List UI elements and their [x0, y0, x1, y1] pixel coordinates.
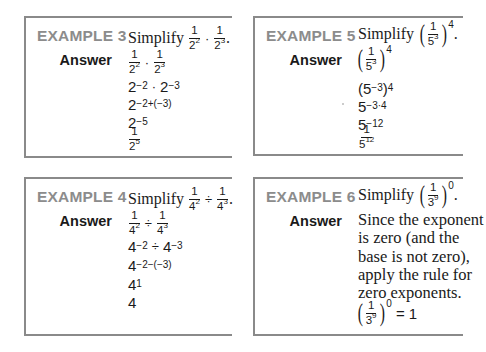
example-6-explanation-line-3: base is not zero),: [358, 247, 470, 267]
example-4-label: EXAMPLE 4: [37, 188, 127, 206]
example-5-prompt: Simplify (153)4.: [358, 21, 458, 47]
example-4-step-4: 41: [128, 276, 142, 293]
example-4-prompt: Simplify 142 ÷ 143.: [128, 186, 233, 212]
example-3-step-2: 2−2·2−3: [128, 78, 180, 95]
example-3-step-3: 2−2+(−3): [128, 96, 172, 113]
example-5-step-3: 5−3·4: [358, 98, 387, 115]
example-4-step-2: 4−2÷4−3: [128, 238, 183, 255]
example-3-prompt: Simplify 122 · 123.: [128, 25, 230, 51]
example-6-label: EXAMPLE 6: [266, 188, 356, 206]
example-4-answer-label: Answer: [32, 213, 112, 229]
example-6-explanation-line-2: is zero (and the: [358, 228, 459, 248]
example-5-label: EXAMPLE 5: [266, 27, 356, 45]
example-4-step-5: 4: [128, 294, 136, 311]
stray-dot: [342, 103, 344, 105]
example-4-step-3: 4−2−(−3): [128, 257, 172, 274]
simplify-word: Simplify: [128, 29, 184, 47]
example-6-explanation-line-4: apply the rule for: [358, 265, 472, 285]
simplify-word: Simplify: [358, 25, 414, 43]
fraction: 123: [214, 25, 225, 51]
example-6-prompt: Simplify (139)0.: [358, 182, 458, 208]
simplify-word: Simplify: [358, 186, 414, 204]
example-3-label: EXAMPLE 3: [37, 27, 127, 45]
example-5-step-5: 1512: [358, 124, 375, 150]
fraction: 122: [189, 25, 200, 51]
simplify-word: Simplify: [128, 190, 184, 208]
example-6-answer-label: Answer: [262, 213, 342, 229]
example-5-step-2: (5−3)4: [358, 80, 393, 97]
example-5-step-1: (153)4: [356, 46, 392, 72]
example-3-step-5: 125: [128, 126, 141, 152]
example-6-result: (139)0 = 1: [356, 300, 417, 326]
example-5-answer-label: Answer: [262, 52, 342, 68]
example-3-answer-label: Answer: [32, 52, 112, 68]
example-3-step-1: 122 · 123: [128, 49, 166, 75]
example-4-step-1: 142 ÷ 143: [128, 210, 169, 236]
example-6-explanation-line-1: Since the exponent: [358, 210, 484, 230]
